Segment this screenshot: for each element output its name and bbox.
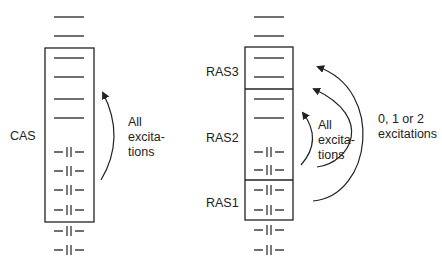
cas-panel: CAS All excita- tions <box>10 17 165 255</box>
occupied-orbital <box>254 205 284 215</box>
occupied-orbital <box>54 245 84 255</box>
cas-orbitals <box>54 17 84 255</box>
ras-box <box>245 47 293 220</box>
occupied-orbital <box>54 226 84 236</box>
ras-orbitals <box>254 17 284 255</box>
ras2-arrow-label-1: All <box>318 118 332 132</box>
occupied-orbital <box>254 185 284 195</box>
cas-arrow-label-3: tions <box>128 145 154 159</box>
occupied-orbital <box>254 165 284 175</box>
occupied-orbital <box>54 166 84 176</box>
ras2-label: RAS2 <box>206 131 239 145</box>
occupied-orbital <box>254 225 284 235</box>
ras2-excitation-arrow <box>301 113 313 165</box>
cas-label: CAS <box>10 129 36 143</box>
occupied-orbital <box>254 245 284 255</box>
cas-arrow-label-2: excita- <box>128 130 165 144</box>
occupied-orbital <box>54 147 84 157</box>
cas-box <box>45 48 94 222</box>
cas-arrow-label-1: All <box>128 115 142 129</box>
cas-ras-diagram: CAS All excita- tions RAS3 RAS2 RAS1 All… <box>0 0 442 271</box>
occupied-orbital <box>54 205 84 215</box>
outer-arrow-label-2: excitations <box>378 127 437 141</box>
ras2-arrow-label-3: tions <box>318 148 344 162</box>
occupied-orbital <box>54 185 84 195</box>
occupied-orbital <box>254 147 284 157</box>
outer-arrow-label-1: 0, 1 or 2 <box>378 112 424 126</box>
ras1-label: RAS1 <box>206 196 239 210</box>
ras3-label: RAS3 <box>206 65 239 79</box>
cas-excitation-arrow <box>101 93 114 180</box>
ras-panel: RAS3 RAS2 RAS1 All excita- tions 0, 1 or… <box>206 17 437 255</box>
